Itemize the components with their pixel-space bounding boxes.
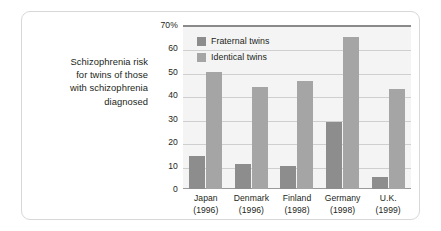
bar-chart: 010203040506070% Fraternal twinsIdentica… (149, 25, 411, 207)
bar[interactable] (252, 87, 268, 189)
x-axis-tick-label: U.K.(1999) (365, 193, 411, 216)
caption-line: with schizophrenia (31, 81, 148, 94)
x-axis-year: (1999) (365, 205, 411, 217)
x-axis-year: (1998) (274, 205, 320, 217)
bar[interactable] (235, 164, 251, 189)
bar[interactable] (280, 166, 296, 189)
chart-legend: Fraternal twinsIdentical twins (197, 34, 269, 66)
x-axis: Japan(1996)Denmark(1996)Finland(1998)Ger… (183, 193, 411, 216)
figure-card: Schizophrenia risk for twins of those wi… (21, 11, 420, 220)
x-axis-country: Denmark (229, 193, 275, 205)
caption-line: for twins of those (31, 68, 148, 81)
y-axis-tick-label: 20 (168, 137, 178, 147)
bar-group (274, 27, 320, 189)
y-axis-tick-label: 0 (173, 184, 178, 194)
plot-area: Fraternal twinsIdentical twins (183, 25, 411, 189)
x-axis-tick-label: Finland(1998) (274, 193, 320, 216)
y-axis-tick-label: 50 (168, 67, 178, 77)
x-axis-country: Germany (320, 193, 366, 205)
bar[interactable] (206, 72, 222, 189)
x-axis-year: (1996) (183, 205, 229, 217)
bar[interactable] (372, 177, 388, 189)
bar[interactable] (343, 37, 359, 189)
x-axis-country: U.K. (365, 193, 411, 205)
x-axis-tick-label: Denmark(1996) (229, 193, 275, 216)
legend-label: Fraternal twins (211, 36, 269, 46)
legend-swatch-icon (197, 53, 206, 62)
x-axis-country: Finland (274, 193, 320, 205)
legend-label: Identical twins (211, 52, 267, 62)
x-axis-year: (1998) (320, 205, 366, 217)
x-axis-country: Japan (183, 193, 229, 205)
legend-swatch-icon (197, 37, 206, 46)
caption-line: Schizophrenia risk (31, 55, 148, 68)
y-axis-tick-label: 60 (168, 43, 178, 53)
legend-item[interactable]: Fraternal twins (197, 34, 269, 48)
y-axis-tick-label: 30 (168, 114, 178, 124)
legend-item[interactable]: Identical twins (197, 50, 269, 64)
chart-caption: Schizophrenia risk for twins of those wi… (31, 55, 148, 108)
bar[interactable] (189, 156, 205, 189)
x-axis-tick-label: Germany(1998) (320, 193, 366, 216)
caption-line: diagnosed (31, 95, 148, 108)
bar-group (365, 27, 411, 189)
bar-group (320, 27, 366, 189)
bar[interactable] (297, 81, 313, 189)
x-axis-year: (1996) (229, 205, 275, 217)
x-axis-tick-label: Japan(1996) (183, 193, 229, 216)
y-axis-tick-label: 70% (160, 20, 178, 30)
y-axis: 010203040506070% (149, 25, 181, 207)
bar[interactable] (389, 89, 405, 189)
y-axis-tick-label: 10 (168, 161, 178, 171)
bar[interactable] (326, 122, 342, 189)
y-axis-tick-label: 40 (168, 90, 178, 100)
